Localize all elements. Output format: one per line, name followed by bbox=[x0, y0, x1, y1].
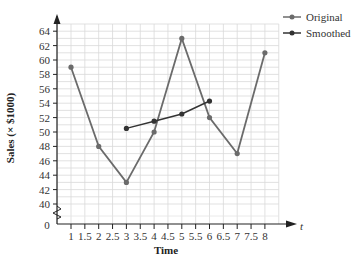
legend-label: Original bbox=[306, 11, 343, 23]
data-point bbox=[179, 36, 184, 41]
x-axis-title: Time bbox=[154, 244, 178, 256]
data-point bbox=[207, 98, 212, 103]
svg-text:1.5: 1.5 bbox=[78, 230, 92, 242]
svg-text:48: 48 bbox=[39, 140, 51, 152]
legend: OriginalSmoothed bbox=[283, 11, 351, 39]
svg-text:1: 1 bbox=[68, 230, 74, 242]
data-point bbox=[152, 129, 157, 134]
data-point bbox=[124, 126, 129, 131]
data-point bbox=[235, 151, 240, 156]
data-point bbox=[124, 180, 129, 185]
data-point bbox=[262, 50, 267, 55]
x-axis-variable: t bbox=[300, 220, 304, 232]
line-chart: 40424446485052545658606264 11.522.533.54… bbox=[0, 0, 364, 269]
data-point bbox=[68, 65, 73, 70]
svg-text:52: 52 bbox=[39, 112, 50, 124]
svg-text:54: 54 bbox=[39, 97, 51, 109]
svg-text:50: 50 bbox=[39, 126, 51, 138]
svg-text:2.5: 2.5 bbox=[106, 230, 120, 242]
data-point bbox=[96, 144, 101, 149]
svg-text:40: 40 bbox=[39, 198, 51, 210]
svg-text:2: 2 bbox=[96, 230, 102, 242]
legend-label: Smoothed bbox=[306, 27, 351, 39]
data-point bbox=[179, 111, 184, 116]
svg-text:64: 64 bbox=[39, 25, 51, 37]
origin-label: 0 bbox=[44, 219, 50, 231]
svg-text:56: 56 bbox=[39, 83, 51, 95]
svg-text:7.5: 7.5 bbox=[244, 230, 258, 242]
svg-text:3: 3 bbox=[124, 230, 130, 242]
svg-text:62: 62 bbox=[39, 40, 50, 52]
svg-text:5.5: 5.5 bbox=[189, 230, 203, 242]
svg-text:42: 42 bbox=[39, 184, 50, 196]
svg-text:46: 46 bbox=[39, 155, 51, 167]
legend-item-original: Original bbox=[283, 11, 343, 23]
svg-text:44: 44 bbox=[39, 169, 51, 181]
legend-item-smoothed: Smoothed bbox=[283, 27, 351, 39]
svg-text:4.5: 4.5 bbox=[161, 230, 175, 242]
svg-text:6.5: 6.5 bbox=[216, 230, 230, 242]
data-point bbox=[152, 119, 157, 124]
svg-text:60: 60 bbox=[39, 54, 51, 66]
x-axis-ticks: 11.522.533.544.555.566.577.58 bbox=[68, 224, 268, 242]
svg-text:8: 8 bbox=[262, 230, 268, 242]
svg-text:5: 5 bbox=[179, 230, 185, 242]
svg-text:4: 4 bbox=[151, 230, 157, 242]
svg-text:58: 58 bbox=[39, 68, 51, 80]
y-axis-title: Sales (× $1000) bbox=[4, 92, 17, 163]
y-axis-ticks: 40424446485052545658606264 bbox=[39, 25, 57, 210]
svg-text:7: 7 bbox=[234, 230, 240, 242]
data-point bbox=[207, 115, 212, 120]
svg-text:6: 6 bbox=[207, 230, 213, 242]
svg-text:3.5: 3.5 bbox=[133, 230, 147, 242]
